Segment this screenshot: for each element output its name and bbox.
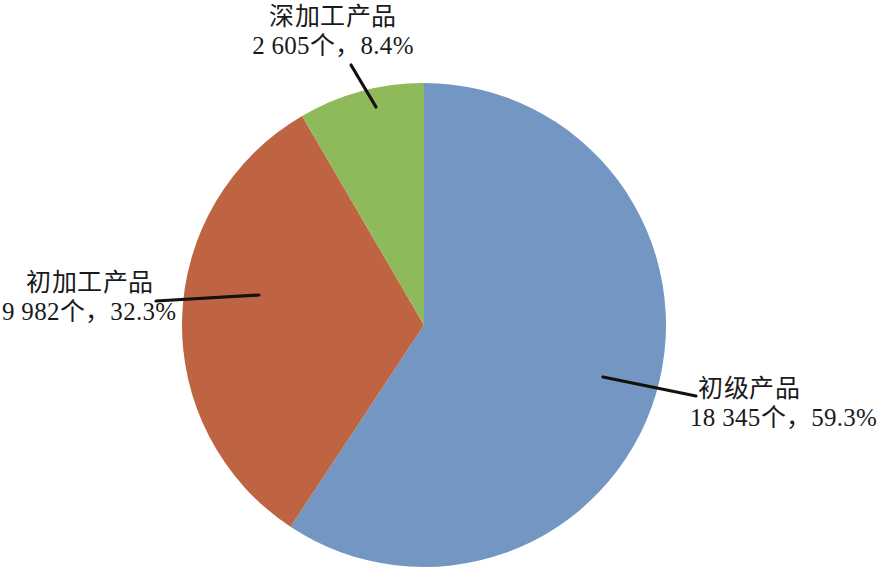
slice-label-deep-processed-name: 深加工产品 [238, 2, 428, 31]
slice-label-primary-processed-value: 9 982个，32.3% [2, 297, 202, 326]
slice-label-primary-processed: 初加工产品 9 982个，32.3% [2, 268, 202, 326]
slice-label-raw: 初级产品 18 345个，59.3% [690, 374, 870, 432]
slice-label-deep-processed-value: 2 605个，8.4% [238, 31, 428, 60]
slice-label-primary-processed-name: 初加工产品 [2, 268, 202, 297]
slice-label-raw-value: 18 345个，59.3% [690, 403, 870, 432]
slice-label-deep-processed: 深加工产品 2 605个，8.4% [238, 2, 428, 60]
slice-label-raw-name: 初级产品 [690, 374, 870, 403]
